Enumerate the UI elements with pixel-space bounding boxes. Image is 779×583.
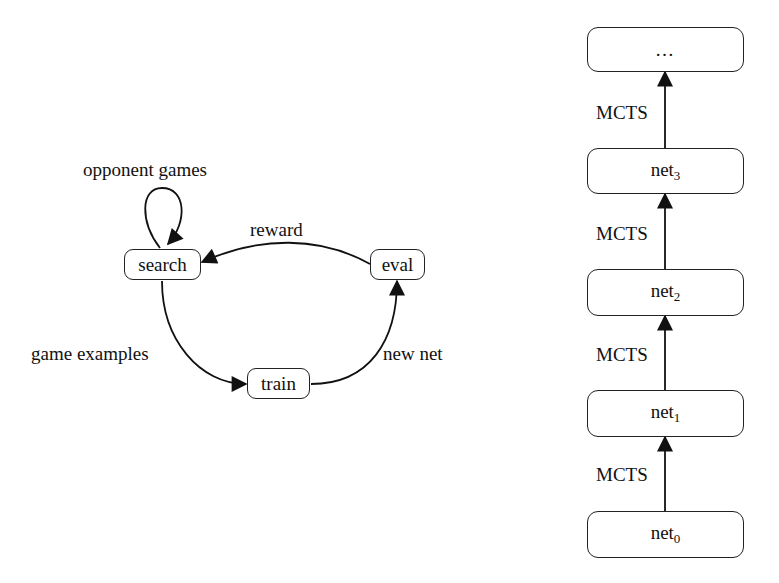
node-net-1-label: net1	[651, 401, 681, 426]
node-net-1: net1	[587, 390, 744, 437]
node-train: train	[247, 368, 310, 399]
edge-opponent-games	[145, 188, 181, 248]
label-game-examples: game examples	[31, 344, 149, 363]
edge-reward	[202, 243, 370, 264]
node-net-2: net2	[587, 269, 744, 316]
label-mcts-0: MCTS	[596, 465, 648, 484]
label-opponent-games: opponent games	[83, 160, 207, 179]
node-train-label: train	[261, 373, 296, 395]
edge-new-net	[311, 281, 397, 384]
node-search-label: search	[138, 254, 187, 276]
node-ellipsis: …	[587, 27, 744, 72]
node-net-3-label: net3	[651, 159, 681, 184]
label-reward: reward	[250, 220, 303, 239]
node-net-0: net0	[587, 511, 744, 558]
label-new-net: new net	[383, 344, 443, 363]
node-eval: eval	[370, 249, 425, 280]
node-search: search	[124, 249, 201, 280]
node-net-0-label: net0	[651, 522, 681, 547]
label-mcts-3: MCTS	[596, 103, 648, 122]
node-net-3: net3	[587, 148, 744, 194]
label-mcts-1: MCTS	[596, 345, 648, 364]
edge-game-examples	[162, 281, 246, 384]
label-mcts-2: MCTS	[596, 224, 648, 243]
node-ellipsis-label: …	[655, 39, 676, 61]
node-net-2-label: net2	[651, 280, 681, 305]
node-eval-label: eval	[382, 254, 414, 276]
